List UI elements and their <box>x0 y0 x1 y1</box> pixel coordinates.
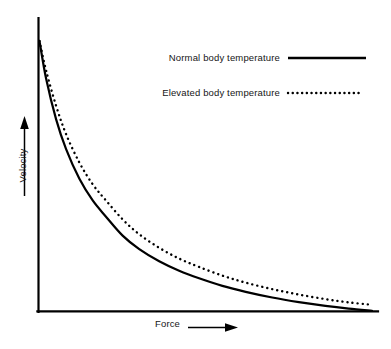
series-line-elevated-body-temperature <box>40 41 373 305</box>
legend-label-normal-body-temperature: Normal body temperature <box>120 52 280 63</box>
y-axis-label: Velocity <box>17 136 28 196</box>
force-velocity-chart: Normal body temperature Elevated body te… <box>0 0 391 349</box>
x-axis-label: Force <box>155 318 180 329</box>
legend-label-elevated-body-temperature: Elevated body temperature <box>110 87 280 98</box>
series-line-normal-body-temperature <box>40 41 373 311</box>
x-axis-arrow-icon <box>188 323 238 332</box>
